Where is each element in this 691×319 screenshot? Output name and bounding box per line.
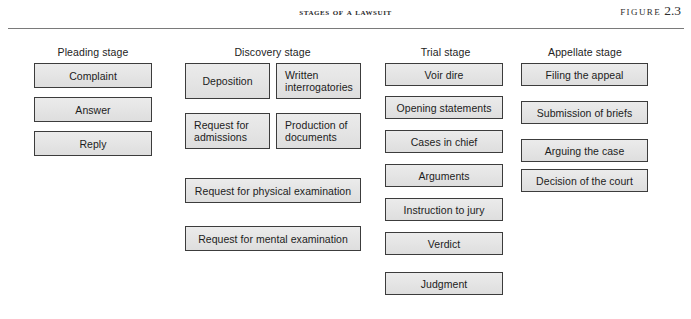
stage-box-label: Answer xyxy=(75,104,110,116)
stage-box: Instruction to jury xyxy=(385,198,503,221)
stage-box-label: Opening statements xyxy=(397,102,492,114)
stage-box-label: Voir dire xyxy=(425,69,464,81)
stage-box-label: Production of documents xyxy=(285,119,348,143)
stage-box-label: Cases in chief xyxy=(411,136,478,148)
lawsuit-stages-diagram: Pleading stageDiscovery stageTrial stage… xyxy=(0,0,691,319)
stage-box: Arguments xyxy=(385,164,503,187)
stage-box-label: Deposition xyxy=(202,75,252,87)
stage-box: Arguing the case xyxy=(521,139,648,162)
stage-box: Decision of the court xyxy=(521,169,648,192)
stage-box: Written interrogatories xyxy=(276,63,361,99)
stage-box-label: Request for mental examination xyxy=(198,233,348,245)
stage-box: Cases in chief xyxy=(385,130,503,153)
stage-box-label: Submission of briefs xyxy=(537,107,633,119)
stage-box-label: Arguments xyxy=(418,170,469,182)
column-heading-discovery: Discovery stage xyxy=(185,46,360,58)
stage-box-label: Reply xyxy=(79,138,106,150)
stage-box-label: Verdict xyxy=(428,238,460,250)
stage-box: Request for admissions xyxy=(185,113,270,149)
column-heading-appellate: Appellate stage xyxy=(520,46,650,58)
column-heading-pleading: Pleading stage xyxy=(33,46,153,58)
stage-box: Deposition xyxy=(185,63,270,99)
stage-box-label: Instruction to jury xyxy=(404,204,485,216)
stage-box-label: Judgment xyxy=(421,278,468,290)
stage-box-label: Complaint xyxy=(69,70,117,82)
column-heading-trial: Trial stage xyxy=(383,46,508,58)
stage-box-label: Arguing the case xyxy=(545,145,625,157)
stage-box: Opening statements xyxy=(385,96,503,119)
stage-box: Reply xyxy=(34,131,152,156)
stage-box: Verdict xyxy=(385,232,503,255)
stage-box: Production of documents xyxy=(276,113,361,149)
stage-box: Answer xyxy=(34,97,152,122)
stage-box: Filing the appeal xyxy=(521,63,648,86)
stage-box-label: Request for admissions xyxy=(194,119,249,143)
stage-box-label: Filing the appeal xyxy=(546,69,624,81)
stage-box: Voir dire xyxy=(385,63,503,86)
stage-box: Request for mental examination xyxy=(185,226,361,251)
stage-box: Submission of briefs xyxy=(521,101,648,124)
stage-box: Judgment xyxy=(385,272,503,295)
stage-box: Request for physical examination xyxy=(185,178,361,203)
stage-box-label: Decision of the court xyxy=(536,175,633,187)
stage-box-label: Request for physical examination xyxy=(195,185,351,197)
stage-box-label: Written interrogatories xyxy=(285,69,353,93)
stage-box: Complaint xyxy=(34,63,152,88)
